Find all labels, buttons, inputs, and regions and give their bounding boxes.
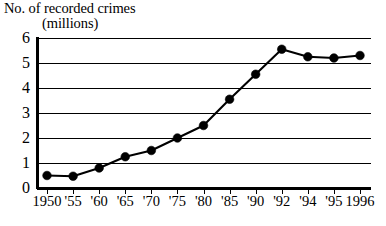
data-markers <box>43 45 365 181</box>
data-point-95 <box>330 54 339 63</box>
y-axis-label-4: 4 <box>8 80 30 96</box>
data-point-65 <box>121 152 130 161</box>
y-axis-label-3: 3 <box>8 105 30 121</box>
x-axis-label-90: '90 <box>247 194 264 209</box>
x-axis-label-92: '92 <box>273 194 290 209</box>
data-point-85 <box>225 95 234 104</box>
data-point-75 <box>173 134 182 143</box>
data-point-60 <box>95 164 104 173</box>
y-axis-label-2: 2 <box>8 130 30 146</box>
data-point-70 <box>147 146 156 155</box>
data-point-1996 <box>356 51 365 60</box>
x-axis-label-85: '85 <box>221 194 238 209</box>
x-axis-label-1996: 1996 <box>346 194 375 209</box>
plot-area: 0123456 1950'55'60'65'70'75'80'85'90'92'… <box>0 0 386 226</box>
x-axis-label-95: '95 <box>325 194 342 209</box>
data-point-55 <box>69 172 78 181</box>
data-point-92 <box>277 45 286 54</box>
x-axis-label-55: '55 <box>65 194 82 209</box>
data-point-94 <box>304 52 313 61</box>
x-axis-label-80: '80 <box>195 194 212 209</box>
data-point-1950 <box>43 171 52 180</box>
data-point-90 <box>251 70 260 79</box>
x-axis-label-65: '65 <box>117 194 134 209</box>
data-point-80 <box>199 121 208 130</box>
y-axis-label-5: 5 <box>8 55 30 71</box>
x-axis-label-94: '94 <box>299 194 316 209</box>
y-axis-label-6: 6 <box>8 30 30 46</box>
x-axis-label-1950: 1950 <box>33 194 62 209</box>
y-axis-label-0: 0 <box>8 180 30 196</box>
x-axis-label-75: '75 <box>169 194 186 209</box>
crime-statistics-line-chart: No. of recorded crimes (millions) 012345… <box>0 0 386 226</box>
y-axis-label-1: 1 <box>8 155 30 171</box>
data-line-recorded-crimes <box>47 49 360 176</box>
x-axis-label-70: '70 <box>143 194 160 209</box>
x-axis-label-60: '60 <box>91 194 108 209</box>
